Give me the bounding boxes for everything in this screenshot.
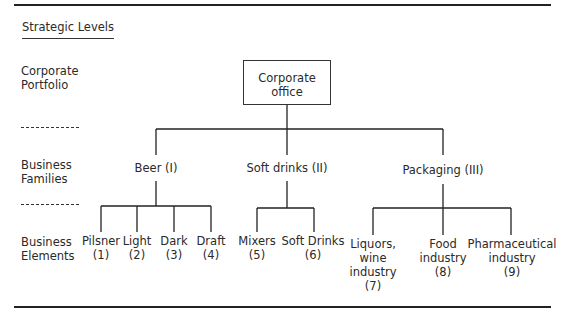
element-draft: Draft(4) bbox=[190, 234, 232, 262]
element-dark: Dark(3) bbox=[154, 234, 194, 262]
element-soft-drinks: Soft Drinks(6) bbox=[278, 234, 348, 262]
corporate-office-box: Corporate office bbox=[243, 60, 331, 105]
element-pharmaceutical-industry: Pharmaceuticalindustry (9) bbox=[466, 237, 558, 279]
element-mixers: Mixers(5) bbox=[234, 234, 280, 262]
family-soft-drinks: Soft drinks (II) bbox=[237, 161, 337, 175]
family-packaging: Packaging (III) bbox=[393, 163, 493, 177]
element-food-industry: Foodindustry (8) bbox=[413, 237, 473, 279]
family-beer: Beer (I) bbox=[116, 161, 196, 175]
element-liquors-wine-industry: Liquors,wine industry(7) bbox=[345, 237, 401, 293]
element-light: Light(2) bbox=[117, 234, 157, 262]
